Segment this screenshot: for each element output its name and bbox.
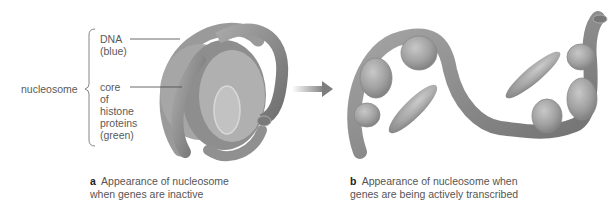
caption-a-letter: a	[90, 175, 96, 187]
panel-b-unwound-dna	[354, 15, 607, 152]
panel-a-nucleosome	[130, 29, 282, 156]
nucleosome-label: nucleosome	[21, 83, 78, 95]
histone-core-label: core of histone proteins (green)	[100, 81, 137, 141]
caption-b: b Appearance of nucleosome when genes ar…	[350, 175, 518, 200]
caption-a: a Appearance of nucleosome when genes ar…	[90, 175, 229, 200]
transition-arrow-icon	[292, 81, 333, 97]
nucleosome-bracket	[85, 29, 95, 146]
caption-b-letter: b	[350, 175, 356, 187]
dna-label: DNA (blue)	[100, 33, 127, 57]
